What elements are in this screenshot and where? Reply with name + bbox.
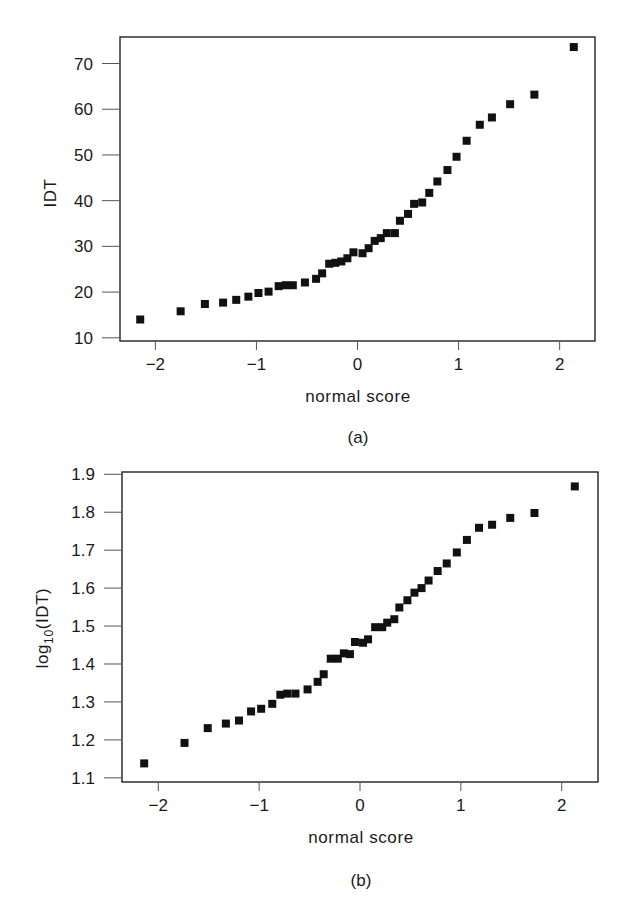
y-tick-label: 10: [74, 329, 93, 348]
data-point-marker: [475, 524, 483, 532]
data-point-marker: [327, 655, 335, 663]
data-point-marker: [219, 299, 227, 307]
data-point-marker: [404, 210, 412, 218]
data-point-marker: [232, 296, 240, 304]
data-point-marker: [410, 589, 418, 597]
data-point-marker: [383, 229, 391, 237]
data-point-marker: [391, 229, 399, 237]
data-point-marker: [201, 300, 209, 308]
data-point-marker: [390, 615, 398, 623]
data-point-marker: [506, 100, 514, 108]
data-point-marker: [371, 623, 379, 631]
data-point-marker: [177, 307, 185, 315]
data-point-marker: [443, 166, 451, 174]
y-tick-label: 1.7: [71, 541, 95, 560]
chart-a-x-axis: −2−1012: [146, 341, 565, 374]
data-point-marker: [570, 43, 578, 51]
chart-b-y-axis-label: log10(IDT): [33, 588, 56, 669]
chart-a-y-axis-label-text: IDT: [41, 178, 60, 207]
y-tick-label: 20: [74, 283, 93, 302]
y-tick-label: 40: [74, 192, 93, 211]
data-point-marker: [418, 198, 426, 206]
x-tick-label: 0: [353, 355, 362, 374]
data-point-marker: [365, 244, 373, 252]
x-tick-label: 2: [555, 355, 564, 374]
y-tick-label: 1.4: [71, 655, 95, 674]
chart-a-plot-frame: [120, 37, 595, 341]
y-tick-label: 1.8: [71, 503, 95, 522]
y-tick-label: 30: [74, 237, 93, 256]
data-point-marker: [453, 153, 461, 161]
data-point-marker: [275, 282, 283, 290]
data-point-marker: [383, 619, 391, 627]
data-point-marker: [257, 705, 265, 713]
data-point-marker: [476, 121, 484, 129]
data-point-marker: [463, 536, 471, 544]
chart-a-x-axis-label: normal score: [305, 387, 410, 406]
data-point-marker: [301, 278, 309, 286]
data-point-marker: [453, 548, 461, 556]
data-point-marker: [304, 685, 312, 693]
data-point-marker: [346, 650, 354, 658]
chart-a-y-axis-label: IDT: [41, 178, 60, 207]
x-tick-label: 2: [557, 796, 566, 815]
data-point-marker: [410, 200, 418, 208]
data-point-marker: [318, 269, 326, 277]
chart-b-y-axis-label-log: log: [33, 644, 52, 669]
data-point-marker: [425, 577, 433, 585]
data-point-marker: [433, 177, 441, 185]
data-point-marker: [235, 717, 243, 725]
data-point-marker: [254, 289, 262, 297]
chart-b-x-axis: −2−1012: [149, 782, 567, 815]
x-tick-label: −1: [249, 796, 268, 815]
data-point-marker: [140, 759, 148, 767]
chart-a-caption: (a): [348, 428, 369, 447]
data-point-marker: [434, 567, 442, 575]
data-point-marker: [425, 189, 433, 197]
chart-b-caption: (b): [351, 871, 372, 890]
chart-a-y-axis: 10203040506070: [74, 55, 120, 348]
data-point-marker: [283, 690, 291, 698]
chart-a-normal-probability-plot-idt: 10203040506070 −2−1012 IDT normal score …: [41, 37, 595, 447]
data-point-marker: [244, 293, 252, 301]
data-point-marker: [571, 482, 579, 490]
y-tick-label: 1.6: [71, 579, 95, 598]
y-tick-label: 1.3: [71, 693, 95, 712]
x-tick-label: −1: [247, 355, 266, 374]
data-point-marker: [289, 281, 297, 289]
y-tick-label: 70: [74, 55, 93, 74]
data-point-marker: [204, 724, 212, 732]
data-point-marker: [247, 707, 255, 715]
data-point-marker: [364, 635, 372, 643]
data-point-marker: [314, 678, 322, 686]
y-tick-label: 60: [74, 100, 93, 119]
x-tick-label: −2: [146, 355, 165, 374]
chart-b-data-points: [140, 482, 579, 767]
data-point-marker: [488, 521, 496, 529]
y-tick-label: 1.9: [71, 465, 95, 484]
data-point-marker: [320, 670, 328, 678]
data-point-marker: [488, 113, 496, 121]
data-point-marker: [291, 690, 299, 698]
data-point-marker: [506, 514, 514, 522]
data-point-marker: [268, 700, 276, 708]
chart-b-normal-probability-plot-log-idt: 1.11.21.31.41.51.61.71.81.9 −2−1012 log1…: [33, 465, 598, 890]
data-point-marker: [530, 509, 538, 517]
data-point-marker: [136, 316, 144, 324]
y-tick-label: 1.2: [71, 731, 95, 750]
chart-a-data-points: [136, 43, 578, 323]
chart-b-plot-frame: [122, 472, 598, 782]
x-tick-label: 1: [456, 796, 465, 815]
x-tick-label: −2: [149, 796, 168, 815]
data-point-marker: [530, 91, 538, 99]
x-tick-label: 0: [355, 796, 364, 815]
data-point-marker: [349, 248, 357, 256]
chart-b-x-axis-label: normal score: [308, 828, 413, 847]
data-point-marker: [463, 137, 471, 145]
data-point-marker: [418, 584, 426, 592]
data-point-marker: [351, 638, 359, 646]
chart-b-y-axis-label-suffix: (IDT): [33, 588, 52, 630]
data-point-marker: [276, 691, 284, 699]
chart-b-y-axis: 1.11.21.31.41.51.61.71.81.9: [71, 465, 122, 788]
chart-b-y-axis-label-subscript: 10: [42, 629, 56, 644]
